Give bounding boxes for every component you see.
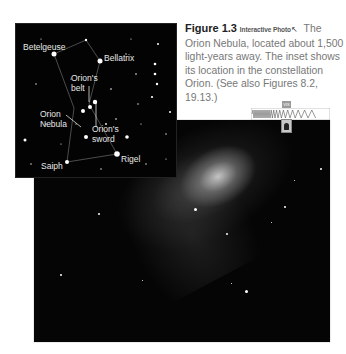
star — [98, 213, 100, 215]
label-orion-nebula: Orion Nebula — [40, 110, 67, 129]
caption-text: The Orion Nebula, located about 1,500 li… — [185, 23, 343, 103]
label-betelgeuse: Betelgeuse — [23, 43, 66, 53]
figure-number: Figure 1.3 — [185, 22, 237, 34]
label-rigel: Rigel — [121, 155, 140, 165]
label-bellatrix: Bellatrix — [104, 54, 134, 64]
star — [60, 274, 62, 276]
star — [294, 180, 295, 181]
star — [231, 283, 232, 284]
star — [245, 290, 248, 293]
star — [226, 233, 228, 235]
orion-constellation-inset: Betelgeuse Bellatrix Orion's belt Orion … — [15, 23, 177, 178]
star — [284, 206, 286, 208]
cursor-arrow-icon: ↖ — [291, 23, 298, 37]
star — [142, 280, 143, 281]
label-saiph: Saiph — [41, 162, 63, 172]
figure-caption: Figure 1.3 Interactive Photo↖ The Orion … — [185, 22, 345, 105]
label-orions-sword: Orion's sword — [92, 125, 119, 144]
interactive-photo-link[interactable]: Interactive Photo — [240, 26, 291, 33]
star — [320, 168, 322, 170]
label-orions-belt: Orion's belt — [71, 74, 98, 93]
star — [271, 222, 272, 223]
star — [194, 208, 197, 211]
eye-icon — [281, 119, 292, 133]
